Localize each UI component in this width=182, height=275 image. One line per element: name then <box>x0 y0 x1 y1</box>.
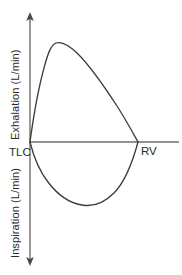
tlc-label: TLC <box>9 146 31 158</box>
flow-volume-loop-chart: Exhalation (L/min) Inspiration (L/min) T… <box>0 0 182 275</box>
expiratory-limb-curve <box>30 43 138 142</box>
inspiratory-limb-curve <box>30 142 138 206</box>
flow-volume-loop-figure: Exhalation (L/min) Inspiration (L/min) T… <box>0 0 182 275</box>
exhalation-axis-label: Exhalation (L/min) <box>9 50 21 140</box>
inspiration-axis-label: Inspiration (L/min) <box>9 168 21 258</box>
rv-label: RV <box>141 145 157 157</box>
